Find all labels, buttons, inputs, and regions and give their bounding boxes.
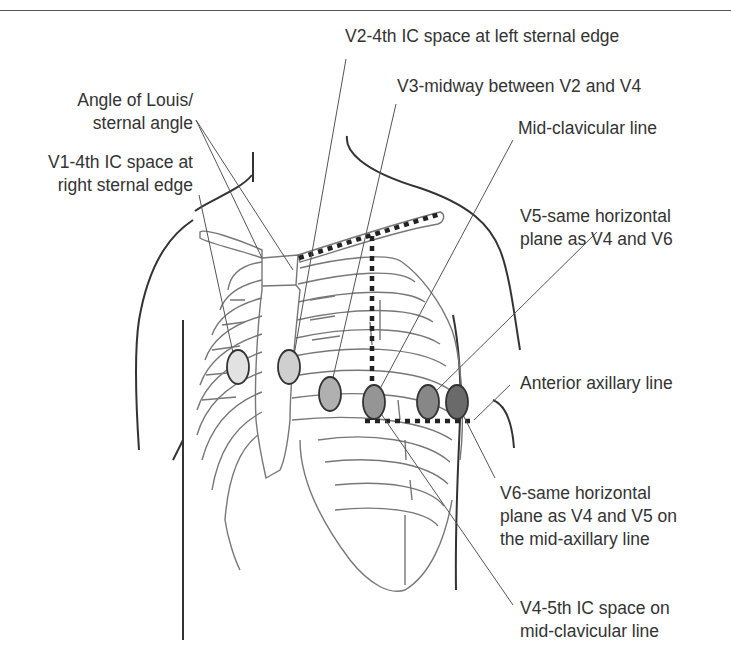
label-v1: V1-4th IC space at right sternal edge [48,151,193,197]
electrode-v3 [319,377,341,411]
label-v2: V2-4th IC space at left sternal edge [345,25,619,48]
label-v3: V3-midway between V2 and V4 [397,75,641,98]
electrode-v5 [417,385,439,419]
label-v4: V4-5th IC space on mid-clavicular line [520,597,670,643]
electrodes [227,350,468,419]
electrode-v4 [363,385,385,419]
electrode-v2 [278,350,300,384]
label-mid-clavicular-line: Mid-clavicular line [518,117,657,140]
label-anterior-axillary-line: Anterior axillary line [520,372,673,395]
label-v6: V6-same horizontal plane as V4 and V5 on… [500,482,677,551]
electrode-v1 [227,350,249,384]
label-angle-of-louis: Angle of Louis/ sternal angle [77,89,193,135]
label-v5: V5-same horizontal plane as V4 and V6 [520,205,673,251]
electrode-v6 [446,385,468,419]
